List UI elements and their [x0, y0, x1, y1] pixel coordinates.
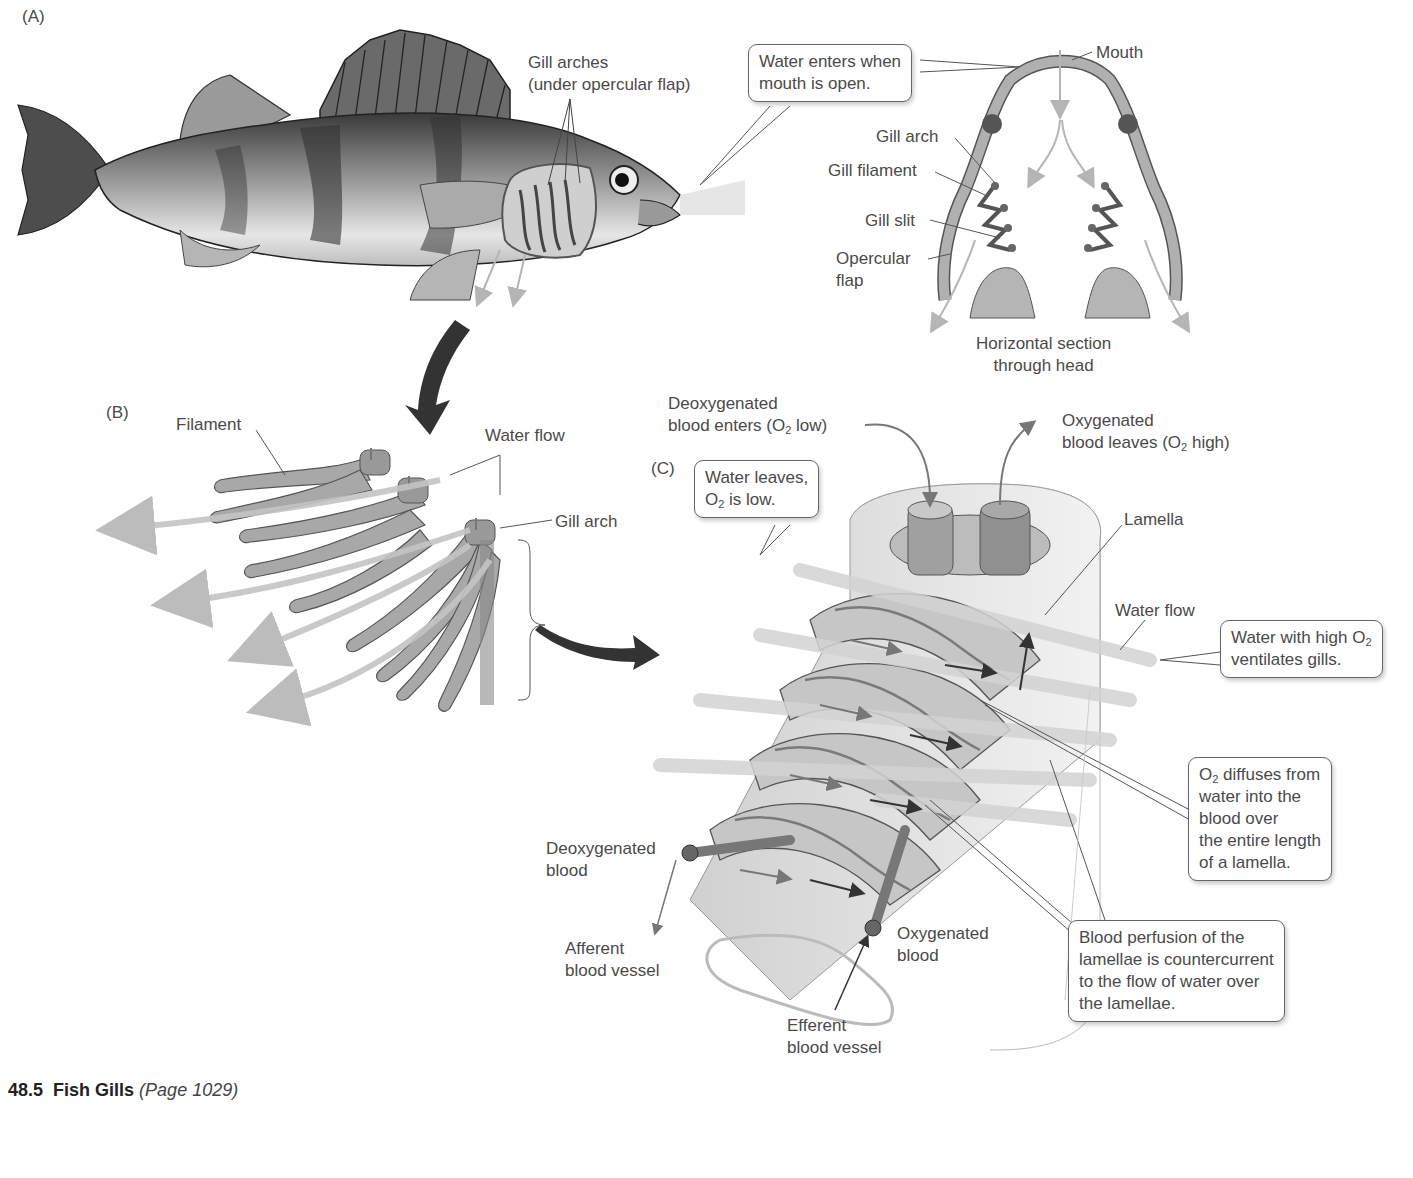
caption-title: Fish Gills: [53, 1080, 134, 1100]
callout-high-o2: Water with high O2 ventilates gills.: [1220, 620, 1383, 678]
callout-blood-perfusion: Blood perfusion of the lamellae is count…: [1068, 920, 1285, 1022]
callout-water-leaves: Water leaves, O2 is low.: [694, 460, 819, 518]
label-deoxygenated-enters: Deoxygenated blood enters (O2 low): [668, 393, 827, 437]
label-opercular-flap: Opercular flap: [836, 248, 911, 292]
callout-o2-diffuses: O2 diffuses from water into the blood ov…: [1188, 757, 1332, 881]
label-horizontal-section: Horizontal section through head: [976, 333, 1111, 377]
panel-c-letter: (C): [651, 458, 675, 480]
label-gill-slit: Gill slit: [865, 210, 915, 232]
caption-number: 48.5: [8, 1080, 43, 1100]
label-gill-arches: Gill arches (under opercular flap): [528, 52, 691, 96]
label-water-flow-c: Water flow: [1115, 600, 1195, 622]
label-water-flow-b: Water flow: [485, 425, 565, 447]
panel-a-letter: (A): [22, 6, 45, 28]
label-efferent-vessel: Efferent blood vessel: [787, 1015, 882, 1059]
label-gill-arch-b: Gill arch: [555, 511, 617, 533]
gill-arches-illustration: [125, 430, 552, 711]
label-oxygenated-leaves: Oxygenated blood leaves (O2 high): [1062, 410, 1230, 454]
label-oxygenated-blood: Oxygenated blood: [897, 923, 989, 967]
head-section-illustration: [928, 50, 1185, 325]
callout-water-enters: Water enters when mouth is open.: [748, 44, 912, 102]
figure-caption: 48.5 Fish Gills (Page 1029): [8, 1080, 238, 1101]
label-mouth: Mouth: [1096, 42, 1143, 64]
panel-b-letter: (B): [106, 402, 129, 424]
caption-page-ref: (Page 1029): [139, 1080, 238, 1100]
arrow-a-to-b: [405, 320, 470, 435]
label-gill-arch: Gill arch: [876, 126, 938, 148]
label-filament: Filament: [176, 414, 241, 436]
label-deoxygenated-blood: Deoxygenated blood: [546, 838, 656, 882]
arrow-b-to-c: [535, 625, 660, 670]
label-afferent-vessel: Afferent blood vessel: [565, 938, 660, 982]
label-gill-filament: Gill filament: [828, 160, 917, 182]
label-lamella: Lamella: [1124, 509, 1184, 531]
